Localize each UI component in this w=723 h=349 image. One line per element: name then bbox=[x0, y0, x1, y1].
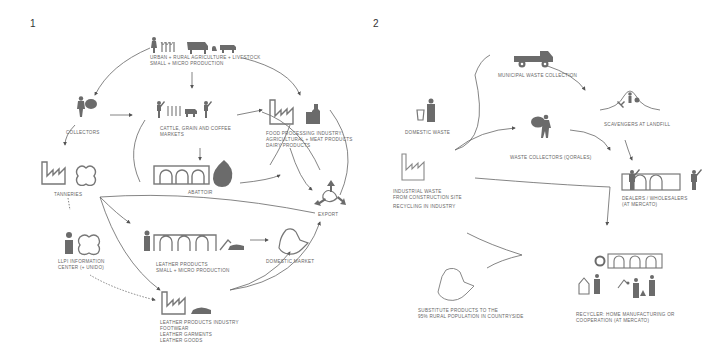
recycler-icon bbox=[576, 252, 672, 300]
leather-workshop-icon bbox=[142, 230, 248, 252]
industrial-waste-label: INDUSTRIAL WASTE FROM CONSTRUCTION SITE bbox=[393, 189, 462, 201]
leather-small-label: LEATHER PRODUCTS SMALL + MICRO PRODUCTIO… bbox=[156, 262, 230, 274]
agriculture-livestock-icon bbox=[150, 36, 240, 54]
ethiopia-map-outline-icon bbox=[436, 266, 480, 304]
recycling-industry-label: RECYCLING IN INDUSTRY bbox=[393, 204, 456, 210]
food-factory-icon bbox=[268, 98, 324, 132]
leather-industry-icon bbox=[160, 290, 216, 318]
tannery-factory-icon bbox=[40, 160, 104, 186]
landfill-icon bbox=[598, 88, 662, 114]
industrial-factory-icon bbox=[400, 152, 432, 182]
domestic-market-label: DOMESTIC MARKET bbox=[266, 259, 314, 265]
llpi-label: LLPI INFORMATION CENTER (+ UNIDO) bbox=[58, 259, 105, 271]
waste-collector-icon bbox=[530, 114, 556, 140]
export-icon bbox=[312, 180, 348, 210]
food-processing-label: FOOD PROCESSING INDUSTRY: AGRICULTURAL +… bbox=[266, 131, 353, 149]
production-label: URBAN + RURAL AGRICULTURE + LIVESTOCK SM… bbox=[150, 55, 261, 67]
tanneries-label: TANNERIES bbox=[54, 192, 82, 198]
collector-icon bbox=[74, 96, 100, 118]
municipal-waste-label: MUNICIPAL WASTE COLLECTION bbox=[498, 73, 577, 79]
export-label: EXPORT bbox=[318, 212, 338, 218]
truck-icon bbox=[512, 48, 556, 70]
panel-2-number: 2 bbox=[373, 18, 379, 29]
markets-icon bbox=[155, 100, 215, 120]
waste-collectors-label: WASTE COLLECTORS (QORALES) bbox=[510, 155, 592, 161]
dealers-label: DEALERS / WHOLESALERS (AT MERCATO) bbox=[622, 196, 688, 208]
domestic-waste-icon bbox=[415, 98, 439, 124]
panel-1-number: 1 bbox=[30, 18, 36, 29]
scavengers-label: SCAVENGERS AT LANDFILL bbox=[604, 122, 670, 128]
leather-industry-label: LEATHER PRODUCTS INDUSTRY FOOTWEAR LEATH… bbox=[160, 320, 239, 344]
markets-label: CATTLE, GRAIN AND COFFEE MARKETS bbox=[160, 126, 231, 138]
abattoir-icon bbox=[152, 158, 242, 188]
recycler-label: RECYCLER: HOME MANUFACTURING OR COOPERAT… bbox=[576, 312, 675, 324]
llpi-icon bbox=[62, 232, 104, 256]
collectors-label: COLLECTORS bbox=[66, 130, 100, 136]
ethiopia-map-icon bbox=[276, 226, 312, 256]
domestic-waste-label: DOMESTIC WASTE bbox=[405, 130, 450, 136]
dealers-icon bbox=[620, 168, 716, 192]
abattoir-label: ABATTOIR bbox=[188, 190, 213, 196]
substitute-products-label: SUBSTITUTE PRODUCTS TO THE 95% RURAL POP… bbox=[418, 308, 524, 320]
